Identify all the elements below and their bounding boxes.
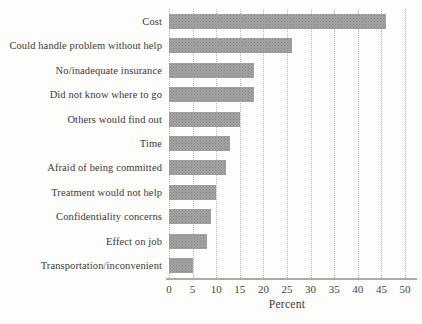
gridline — [358, 9, 359, 278]
bar — [169, 63, 254, 78]
x-tick-label: 35 — [322, 283, 346, 295]
x-axis-title: Percent — [237, 298, 337, 310]
gridline — [381, 9, 382, 278]
bar — [169, 209, 211, 224]
category-label: Transportation/inconvenient — [41, 254, 162, 278]
x-tick-label: 15 — [228, 283, 252, 295]
category-label: Cost — [142, 9, 162, 33]
category-label: Afraid of being committed — [47, 156, 162, 180]
bar — [169, 14, 386, 29]
category-label: Did not know where to go — [50, 82, 162, 106]
bar — [169, 160, 226, 175]
bar — [169, 185, 216, 200]
x-tick-label: 50 — [393, 283, 417, 295]
x-tick-label: 20 — [251, 283, 275, 295]
x-tick-label: 5 — [181, 283, 205, 295]
x-tick-label: 40 — [346, 283, 370, 295]
category-label: No/inadequate insurance — [56, 58, 162, 82]
category-label: Confidentiality concerns — [56, 205, 162, 229]
category-label: Others would find out — [67, 107, 162, 131]
bar — [169, 38, 292, 53]
bar — [169, 234, 207, 249]
x-tick-label: 0 — [157, 283, 181, 295]
gridline — [334, 9, 335, 278]
bar — [169, 136, 230, 151]
x-tick-label: 45 — [369, 283, 393, 295]
x-tick-label: 30 — [299, 283, 323, 295]
bar — [169, 112, 240, 127]
barriers-to-treatment-bar-chart: CostCould handle problem without helpNo/… — [0, 0, 422, 324]
category-label: Could handle problem without help — [9, 33, 162, 57]
category-label: Time — [140, 131, 162, 155]
x-axis-line — [166, 278, 417, 280]
gridline — [311, 9, 312, 278]
category-label: Treatment would not help — [51, 180, 162, 204]
x-tick-label: 10 — [204, 283, 228, 295]
x-tick-label: 25 — [275, 283, 299, 295]
gridline — [405, 9, 406, 278]
bar — [169, 87, 254, 102]
bar — [169, 258, 193, 273]
category-label: Effect on job — [106, 229, 162, 253]
